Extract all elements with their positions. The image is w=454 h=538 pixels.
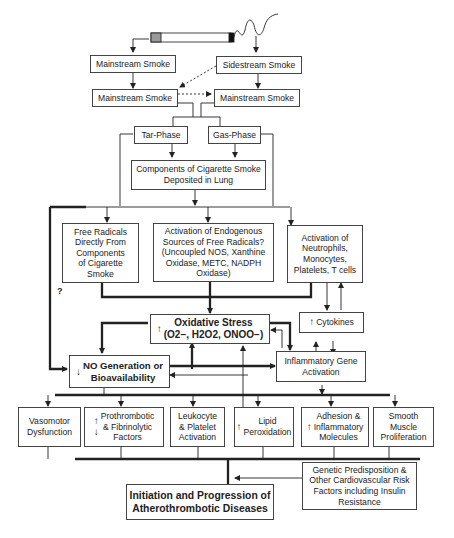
neutrophils-activation-label: Activation of Neutrophils, Monocytes, Pl… [294,233,356,275]
adhesion-molecules-box: ↑ Adhesion & Inflammatory Molecules [301,407,369,447]
mainstream-smoke-box: Mainstream Smoke [90,55,176,73]
smooth-muscle-box: Smooth Muscle Proliferation [373,407,434,447]
smooth-muscle-label: Smooth Muscle Proliferation [381,411,427,443]
vasomotor-dysfunction-label: Vasomotor Dysfunction [27,416,72,437]
oxidative-stress-title: Oxidative Stress [174,317,252,328]
question-mark: ? [57,286,63,296]
up-arrow-icon: ↑ [309,317,314,328]
free-radicals-box: Free Radicals Directly From Components o… [62,223,139,283]
oxidative-species: (O2−, H2O2, ONOO−) [164,329,263,340]
outcome-box: Initiation and Progression of Atherothro… [126,484,274,520]
genetic-predisposition-label: Genetic Predisposition & Other Cardiovas… [309,465,409,507]
no-generation-label: NO Generation or Bioavailability [83,360,163,384]
endogenous-sources-box: Activation of Endogenous Sources of Free… [153,223,274,282]
inflammatory-gene-box: Inflammatory Gene Activation [276,351,366,382]
tar-phase-box: Tar-Phase [134,126,188,144]
leukocyte-platelet-label: Leukocyte & Platelet Activation [178,411,217,443]
up-arrow-icon: ↑ [307,422,312,433]
sidestream-smoke-box: Sidestream Smoke [216,56,302,74]
endogenous-sources-label: Activation of Endogenous Sources of Free… [162,226,266,279]
up-arrow-icon: ↑ [157,323,162,335]
free-radicals-label: Free Radicals Directly From Components o… [74,227,127,280]
up-down-arrow-icon: ↑↓ [94,416,99,437]
no-generation-box: ↓ NO Generation or Bioavailability [69,355,170,388]
adhesion-molecules-label: Adhesion & Inflammatory Molecules [314,411,364,443]
lipid-peroxidation-label: Lipid Peroxidation [244,416,292,437]
sidestream-smoke-label: Sidestream Smoke [223,60,296,71]
oxidative-stress-text: Oxidative Stress (O2−, H2O2, ONOO−) [164,317,263,341]
cytokines-box: ↑ Cytokines [299,312,364,333]
inflammatory-gene-label: Inflammatory Gene Activation [284,356,357,377]
outcome-label: Initiation and Progression of Atherothro… [130,489,271,515]
prothrombotic-box: ↑↓ Prothrombotic & Fibrinolytic Factors [84,407,164,447]
down-arrow-icon: ↓ [76,366,81,378]
mainstream-smoke-mid-left-label: Mainstream Smoke [98,93,172,104]
mainstream-smoke-mid-left-box: Mainstream Smoke [92,89,178,107]
gas-phase-label: Gas-Phase [213,130,256,141]
vasomotor-dysfunction-box: Vasomotor Dysfunction [18,407,81,447]
lipid-peroxidation-box: ↑ Lipid Peroxidation [234,407,294,447]
gas-phase-box: Gas-Phase [208,126,261,144]
prothrombotic-label: Prothrombotic & Fibrinolytic Factors [101,411,155,443]
components-deposited-label: Components of Cigarette Smoke Deposited … [136,164,261,185]
mainstream-smoke-mid-right-box: Mainstream Smoke [214,89,300,107]
leukocyte-platelet-box: Leukocyte & Platelet Activation [170,407,225,447]
genetic-predisposition-box: Genetic Predisposition & Other Cardiovas… [302,462,417,510]
mainstream-smoke-label: Mainstream Smoke [96,59,170,70]
components-deposited-box: Components of Cigarette Smoke Deposited … [131,160,266,190]
neutrophils-activation-box: Activation of Neutrophils, Monocytes, Pl… [287,225,363,283]
cytokines-label: Cytokines [316,317,354,328]
up-arrow-icon: ↑ [237,422,242,433]
diagram-canvas: Mainstream Smoke Sidestream Smoke Mainst… [0,0,454,538]
tar-phase-label: Tar-Phase [141,130,180,141]
oxidative-stress-box: ↑ Oxidative Stress (O2−, H2O2, ONOO−) [150,314,270,344]
mainstream-smoke-mid-right-label: Mainstream Smoke [220,93,294,104]
